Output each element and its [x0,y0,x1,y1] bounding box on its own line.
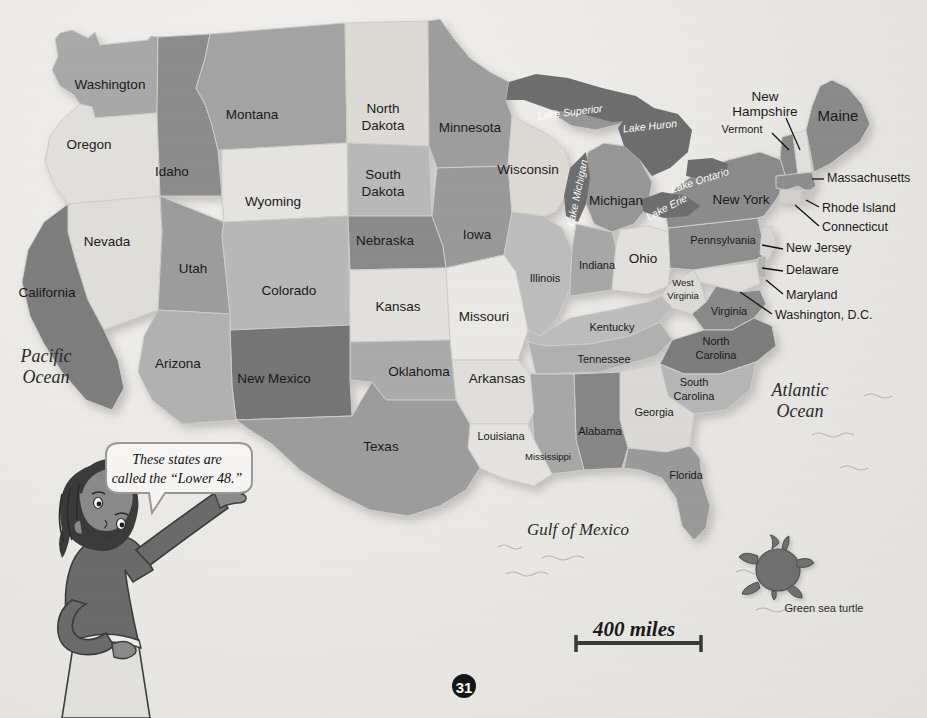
scale-bar-label: 400 miles [592,617,675,641]
state-label-delaware: Delaware [786,263,839,277]
state-label-illinois: Illinois [530,272,561,284]
state-label-washington: Washington [75,77,146,92]
turtle-tail [772,591,777,600]
state-shape-alabama[interactable] [574,372,628,470]
turtle-head [770,535,779,549]
state-label-nebraska: Nebraska [356,233,414,248]
state-label-west-virginia: West [672,277,694,288]
state-label-utah: Utah [179,261,208,276]
state-label-massachusetts: Massachusetts [827,171,910,185]
state-label-west-virginia-2: Virginia [667,290,699,301]
speech-bubble-line2: called the “Lower 48.” [112,471,243,486]
state-shape-maine[interactable] [806,80,870,172]
turtle-flipper-front-left [739,553,758,564]
state-shape-minnesota[interactable] [428,19,512,168]
state-label-colorado: Colorado [262,283,317,298]
ocean-label-atlantic: Atlantic [771,380,829,400]
state-shape-connecticut[interactable] [780,190,800,203]
turtle-shell [756,549,800,591]
state-label-maine: Maine [818,107,859,124]
state-label-wyoming: Wyoming [245,194,301,209]
state-label-tennessee: Tennessee [577,353,630,365]
map-scale-bar: 400 miles [575,617,702,652]
state-label-wisconsin: Wisconsin [497,162,559,177]
page-number-text: 31 [456,679,473,696]
state-label-north-carolina: North [703,335,730,347]
state-label-south-dakota-2: Dakota [362,184,405,199]
state-label-arizona: Arizona [155,356,201,371]
page-canvas: Lake Superior Lake Huron Lake Michigan L… [0,0,927,718]
state-label-nevada: Nevada [84,234,131,249]
state-label-mississippi: Mississippi [525,451,571,462]
state-shape-massachusetts[interactable] [776,172,816,192]
state-label-montana: Montana [226,107,279,122]
state-shape-utah[interactable] [158,196,230,314]
state-label-connecticut: Connecticut [822,220,889,234]
turtle-flipper-rear-right [787,585,802,598]
state-label-florida: Florida [669,469,704,481]
page-number-badge: 31 [452,674,476,698]
state-label-california: California [18,285,76,300]
turtle-caption: Green sea turtle [785,602,864,614]
leader-line-maryland [766,280,783,294]
state-label-north-dakota-2: Dakota [362,118,405,133]
state-label-louisiana: Louisiana [477,430,525,442]
character-pupil-left [97,502,102,507]
state-label-north-dakota: North [366,101,399,116]
state-label-north-carolina-2: Carolina [696,349,738,361]
turtle-flipper-front-right [797,559,814,568]
state-label-south-carolina: South [680,376,709,388]
state-label-kentucky: Kentucky [589,321,635,333]
green-sea-turtle-illustration [739,535,814,600]
state-label-iowa: Iowa [463,227,492,242]
state-label-new-jersey: New Jersey [786,241,852,255]
character-pupil-right [120,523,125,528]
state-label-indiana: Indiana [579,259,616,271]
state-label-new-hampshire: New [751,89,778,104]
state-label-minnesota: Minnesota [439,120,502,135]
state-label-arkansas: Arkansas [469,371,526,386]
turtle-head-2 [782,536,789,550]
ocean-label-pacific: Pacific [20,346,72,366]
state-label-michigan: Michigan [589,193,643,208]
state-shape-florida[interactable] [624,446,710,540]
ocean-label-pacific-2: Ocean [23,367,70,387]
state-label-ohio: Ohio [629,251,658,266]
state-label-alabama: Alabama [578,425,622,437]
ocean-label-atlantic-2: Ocean [777,401,824,421]
state-shape-rhode-island[interactable] [802,190,810,200]
state-label-south-dakota: South [365,167,400,182]
state-label-idaho: Idaho [155,164,189,179]
character-hand-on-hip [112,641,136,658]
state-label-new-hampshire-2: Hampshire [732,104,797,119]
state-shape-wyoming[interactable] [222,143,348,222]
state-label-kansas: Kansas [375,299,420,314]
state-label-south-carolina-2: Carolina [674,390,716,402]
state-shape-colorado[interactable] [222,216,350,330]
state-label-virginia: Virginia [711,305,748,317]
state-shape-iowa[interactable] [432,166,512,268]
state-label-new-mexico: New Mexico [237,371,311,386]
state-label-missouri: Missouri [459,309,509,324]
turtle-flipper-rear-left [742,582,760,594]
state-label-georgia: Georgia [634,406,674,418]
state-label-pennsylvania: Pennsylvania [690,234,756,246]
state-label-rhode-island: Rhode Island [822,201,896,215]
ocean-label-gulf-of-mexico: Gulf of Mexico [527,520,629,539]
speech-bubble-line1: These states are [132,452,222,467]
state-label-maryland: Maryland [786,288,837,302]
us-map-figure: Lake Superior Lake Huron Lake Michigan L… [0,0,927,718]
state-shape-oregon[interactable] [45,104,160,204]
state-label-vermont: Vermont [722,123,763,135]
state-shape-new-jersey[interactable] [760,226,776,260]
state-shape-washington[interactable] [52,30,158,118]
leader-line-connecticut [795,205,819,226]
state-shape-montana[interactable] [196,23,347,150]
state-label-oklahoma: Oklahoma [388,364,450,379]
state-label-washington-dc: Washington, D.C. [775,308,873,322]
state-label-texas: Texas [363,439,399,454]
state-label-oregon: Oregon [66,137,111,152]
leader-line-rhode-island [806,200,819,207]
state-label-new-york: New York [712,192,769,207]
